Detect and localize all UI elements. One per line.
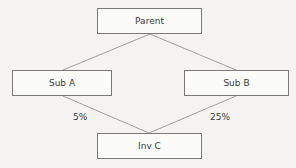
ownership-diagram: Parent Sub A Sub B Inv C 5% 25% [0,0,296,168]
node-parent-label: Parent [135,16,164,26]
edge-label-25-percent: 25% [210,112,230,122]
node-parent: Parent [97,8,202,34]
node-inv-c: Inv C [97,133,202,159]
node-sub-a: Sub A [12,70,112,96]
edge-parent-sub-a [63,34,150,70]
node-sub-b-label: Sub B [223,78,249,88]
node-sub-b: Sub B [184,70,289,96]
node-sub-a-label: Sub A [49,78,75,88]
edge-parent-sub-b [150,34,236,70]
edge-label-5-percent: 5% [73,112,87,122]
node-inv-c-label: Inv C [138,141,161,151]
